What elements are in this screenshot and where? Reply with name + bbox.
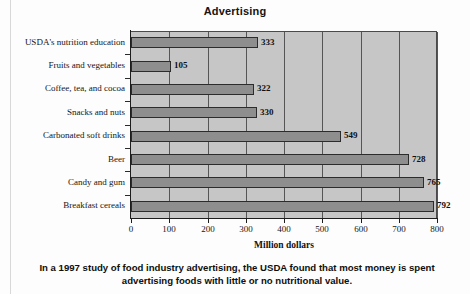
x-axis-tick-label: 200	[193, 224, 223, 234]
category-label: Candy and gum	[5, 177, 125, 187]
y-axis-tick	[125, 101, 130, 102]
gridline	[208, 32, 209, 218]
bar-value-label: 322	[257, 83, 271, 93]
x-axis-tick-label: 700	[384, 224, 414, 234]
caption-line-2: advertising foods with little or no nutr…	[22, 274, 452, 287]
chart-figure: Advertising 0100200300400500600700800 33…	[0, 0, 470, 294]
x-axis-tick	[361, 219, 362, 223]
bar-value-label: 728	[412, 154, 426, 164]
category-label: USDA's nutrition education	[5, 37, 125, 47]
x-axis-tick	[399, 219, 400, 223]
x-axis-tick	[131, 219, 132, 223]
bar	[131, 177, 424, 188]
x-axis-tick-label: 600	[346, 224, 376, 234]
gridline	[399, 32, 400, 218]
x-axis-tick-label: 400	[269, 224, 299, 234]
category-axis-labels: USDA's nutrition educationFruits and veg…	[3, 0, 125, 294]
x-axis-tick	[246, 219, 247, 223]
y-axis-tick	[125, 195, 130, 196]
x-axis-tick	[284, 219, 285, 223]
caption-line-1: In a 1997 study of food industry adverti…	[22, 261, 452, 274]
x-axis-tick-label: 500	[307, 224, 337, 234]
gridline	[284, 32, 285, 218]
bar-value-label: 549	[344, 130, 358, 140]
bar	[131, 131, 341, 142]
category-label: Coffee, tea, and cocoa	[5, 83, 125, 93]
y-axis-tick	[125, 78, 130, 79]
x-axis-tick-label: 800	[422, 224, 452, 234]
figure-caption: In a 1997 study of food industry adverti…	[22, 261, 452, 287]
bar	[131, 37, 258, 48]
x-axis-title: Million dollars	[131, 240, 437, 250]
gridline	[322, 32, 323, 218]
gridline	[437, 32, 438, 218]
bar-value-label: 333	[261, 37, 275, 47]
bar-value-label: 330	[260, 107, 274, 117]
x-axis-tick-label: 300	[231, 224, 261, 234]
bar	[131, 61, 171, 72]
bar	[131, 107, 257, 118]
bar	[131, 154, 409, 165]
y-axis-tick	[125, 148, 130, 149]
category-label: Snacks and nuts	[5, 107, 125, 117]
bar	[131, 84, 254, 95]
y-axis-tick	[125, 171, 130, 172]
x-axis-tick	[437, 219, 438, 223]
category-label: Carbonated soft drinks	[5, 130, 125, 140]
category-label: Breakfast cereals	[5, 200, 125, 210]
y-axis-tick	[125, 125, 130, 126]
gridline	[361, 32, 362, 218]
x-axis-tick	[169, 219, 170, 223]
x-axis-tick-label: 100	[154, 224, 184, 234]
y-axis-line	[130, 30, 131, 219]
category-label: Beer	[5, 154, 125, 164]
category-label: Fruits and vegetables	[5, 60, 125, 70]
bar-value-label: 105	[174, 60, 188, 70]
x-axis-tick	[208, 219, 209, 223]
y-axis-tick	[125, 54, 130, 55]
bar	[131, 201, 434, 212]
x-axis-tick	[322, 219, 323, 223]
bar-value-label: 765	[427, 177, 441, 187]
bar-value-label: 792	[437, 200, 451, 210]
gridline	[169, 32, 170, 218]
gridline	[246, 32, 247, 218]
